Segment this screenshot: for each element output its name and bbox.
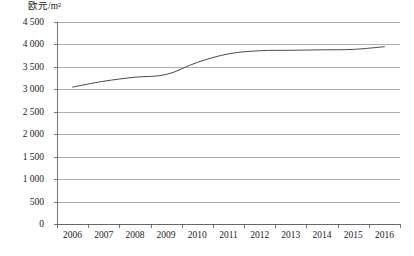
- plot-area: [0, 0, 414, 256]
- x-tick-label: 2013: [275, 230, 306, 241]
- x-tick-label: 2012: [244, 230, 275, 241]
- x-tick-label: 2011: [213, 230, 244, 241]
- x-tick-label: 2009: [151, 230, 182, 241]
- series-line-0: [73, 47, 385, 87]
- x-tick-label: 2007: [88, 230, 119, 241]
- axis-tickmarks: [54, 23, 401, 229]
- data-series: [73, 47, 385, 87]
- line-chart: 欧元/m² 05001 0001 5002 0002 5003 0003 500…: [0, 0, 414, 256]
- gridlines: [57, 23, 400, 225]
- x-tick-label: 2010: [182, 230, 213, 241]
- x-tick-label: 2008: [119, 230, 150, 241]
- x-axis-tick-labels: 2006200720082009201020112012201320142015…: [0, 230, 414, 250]
- x-tick-label: 2014: [306, 230, 337, 241]
- x-tick-label: 2006: [57, 230, 88, 241]
- x-tick-label: 2016: [369, 230, 400, 241]
- x-tick-label: 2015: [338, 230, 369, 241]
- axis-lines: [57, 22, 400, 225]
